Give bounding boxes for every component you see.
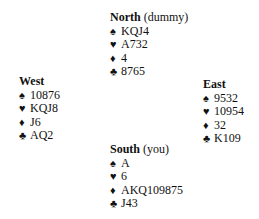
suit-row-hearts: ♥6: [110, 170, 183, 184]
heart-icon: ♥: [203, 105, 214, 119]
cards: 10954: [214, 104, 244, 118]
diamond-icon: ♦: [203, 119, 214, 133]
heart-icon: ♥: [110, 170, 121, 184]
suit-row-diamonds: ♦AKQ109875: [110, 184, 183, 198]
suit-row-spades: ♠9532: [203, 92, 244, 106]
spade-icon: ♠: [203, 92, 214, 106]
hand-north: North (dummy) ♠KQJ4 ♥A732 ♦4 ♣8765: [110, 11, 188, 79]
suit-row-spades: ♠A: [110, 157, 183, 171]
spade-icon: ♠: [110, 25, 121, 39]
cards: 10876: [30, 88, 60, 102]
suit-row-diamonds: ♦4: [110, 52, 188, 66]
suit-row-spades: ♠KQJ4: [110, 25, 188, 39]
hand-south: South (you) ♠A ♥6 ♦AKQ109875 ♣J43: [110, 143, 183, 211]
cards: KQJ8: [30, 101, 58, 115]
cards: A732: [121, 37, 148, 51]
suit-row-clubs: ♣K109: [203, 132, 244, 146]
cards: AQ2: [30, 128, 53, 142]
diamond-icon: ♦: [110, 52, 121, 66]
cards: 9532: [214, 91, 238, 105]
hand-title: South (you): [110, 143, 183, 157]
cards: KQJ4: [121, 24, 149, 38]
cards: AKQ109875: [121, 183, 183, 197]
hand-title: East: [203, 78, 244, 92]
suit-row-hearts: ♥KQJ8: [19, 102, 60, 116]
suit-row-clubs: ♣AQ2: [19, 129, 60, 143]
club-icon: ♣: [110, 65, 121, 79]
player-role: (dummy): [144, 10, 189, 24]
cards: J6: [30, 115, 41, 129]
player-name: South: [110, 142, 140, 156]
spade-icon: ♠: [110, 157, 121, 171]
hand-title: North (dummy): [110, 11, 188, 25]
diamond-icon: ♦: [19, 116, 30, 130]
heart-icon: ♥: [110, 38, 121, 52]
club-icon: ♣: [203, 132, 214, 146]
player-role: (you): [143, 142, 169, 156]
hand-west: West ♠10876 ♥KQJ8 ♦J6 ♣AQ2: [19, 75, 60, 143]
hand-title: West: [19, 75, 60, 89]
player-name: East: [203, 77, 226, 91]
suit-row-diamonds: ♦32: [203, 119, 244, 133]
suit-row-clubs: ♣8765: [110, 65, 188, 79]
suit-row-diamonds: ♦J6: [19, 116, 60, 130]
club-icon: ♣: [110, 197, 121, 211]
heart-icon: ♥: [19, 102, 30, 116]
suit-row-spades: ♠10876: [19, 89, 60, 103]
suit-row-hearts: ♥10954: [203, 105, 244, 119]
cards: A: [121, 156, 130, 170]
hand-east: East ♠9532 ♥10954 ♦32 ♣K109: [203, 78, 244, 146]
cards: 8765: [121, 64, 145, 78]
player-name: North: [110, 10, 141, 24]
player-name: West: [19, 74, 44, 88]
diamond-icon: ♦: [110, 184, 121, 198]
cards: K109: [214, 131, 241, 145]
suit-row-hearts: ♥A732: [110, 38, 188, 52]
cards: 6: [121, 169, 127, 183]
cards: 4: [121, 51, 127, 65]
suit-row-clubs: ♣J43: [110, 197, 183, 211]
cards: J43: [121, 196, 138, 210]
club-icon: ♣: [19, 129, 30, 143]
spade-icon: ♠: [19, 89, 30, 103]
cards: 32: [214, 118, 226, 132]
